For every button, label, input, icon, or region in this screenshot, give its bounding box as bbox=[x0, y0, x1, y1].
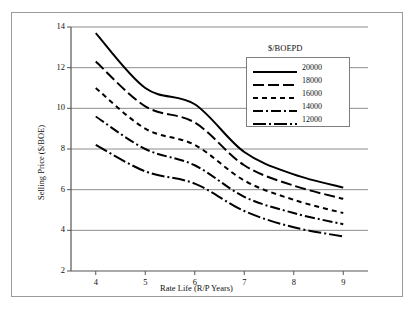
legend-swatch-20000 bbox=[251, 63, 299, 73]
legend-label-20000: 20000 bbox=[302, 63, 322, 72]
x-tick-label: 8 bbox=[284, 277, 304, 287]
legend-swatch-12000 bbox=[251, 115, 299, 125]
legend-label-12000: 12000 bbox=[302, 115, 322, 124]
legend-item-20000[interactable]: 20000 bbox=[251, 61, 347, 74]
legend-title: $/BOEPD bbox=[268, 43, 302, 53]
legend-item-18000[interactable]: 18000 bbox=[251, 74, 347, 87]
legend-item-14000[interactable]: 14000 bbox=[251, 100, 347, 113]
y-tick-label: 2 bbox=[41, 265, 65, 275]
x-tick-label: 5 bbox=[135, 277, 155, 287]
x-axis-title: Rate Life (R/P Years) bbox=[160, 283, 233, 293]
legend-item-12000[interactable]: 12000 bbox=[251, 113, 347, 126]
y-tick-label: 10 bbox=[41, 102, 65, 112]
legend-label-18000: 18000 bbox=[302, 76, 322, 85]
y-tick-label: 14 bbox=[41, 21, 65, 31]
legend-label-14000: 14000 bbox=[302, 102, 322, 111]
x-tick-label: 9 bbox=[333, 277, 353, 287]
figure: 2468101214 456789 Selling Price ($/BOE) … bbox=[0, 0, 419, 313]
legend-swatch-18000 bbox=[251, 76, 299, 86]
legend-item-16000[interactable]: 16000 bbox=[251, 87, 347, 100]
x-tick-label: 4 bbox=[86, 277, 106, 287]
y-axis-title: Selling Price ($/BOE) bbox=[36, 125, 46, 200]
legend: 2000018000160001400012000 bbox=[246, 57, 350, 127]
x-tick-label: 7 bbox=[234, 277, 254, 287]
y-tick-label: 12 bbox=[41, 62, 65, 72]
series-line-14000 bbox=[96, 116, 344, 224]
series-line-12000 bbox=[96, 145, 344, 237]
legend-swatch-16000 bbox=[251, 89, 299, 99]
legend-swatch-14000 bbox=[251, 102, 299, 112]
legend-label-16000: 16000 bbox=[302, 89, 322, 98]
y-tick-label: 4 bbox=[41, 224, 65, 234]
